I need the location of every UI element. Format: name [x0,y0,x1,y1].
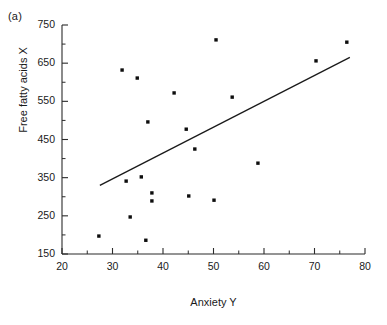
scatter-plot-figure: (a) Free fatty acids X Anxiety Y 1502503… [0,0,387,325]
data-point [136,76,139,79]
data-point [187,194,190,197]
plot-canvas [0,0,387,325]
data-point [214,38,217,41]
data-point [144,239,147,242]
axis-ticks [62,25,365,254]
data-point [193,147,196,150]
data-point [185,127,188,130]
data-point [97,234,100,237]
data-point [172,91,175,94]
data-point [120,68,123,71]
data-point [140,175,143,178]
data-point [314,59,317,62]
data-point [128,215,131,218]
data-point [146,120,149,123]
data-point [345,40,348,43]
data-point [150,191,153,194]
data-point [212,198,215,201]
data-point [230,95,233,98]
data-point [150,199,153,202]
data-points [97,38,348,242]
data-point [124,179,127,182]
axes [62,25,365,254]
data-point [256,161,259,164]
